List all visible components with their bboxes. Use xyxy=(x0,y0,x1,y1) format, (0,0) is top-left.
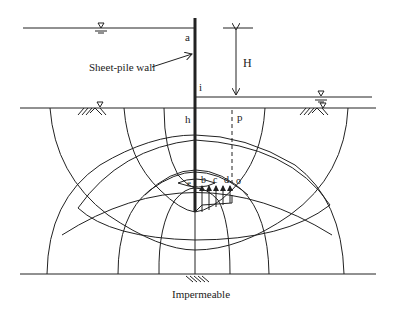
label-h: h xyxy=(185,113,191,125)
label-c: c xyxy=(213,174,218,185)
flow-net-diagram: a i h p H e b c d o Sheet-pile wall Impe… xyxy=(0,0,393,309)
label-p: p xyxy=(237,111,243,123)
impermeable-hatch xyxy=(186,276,209,282)
label-e: e xyxy=(187,178,191,188)
ground-hatch-right xyxy=(300,108,328,115)
equipotential-line xyxy=(195,108,348,250)
label-H: H xyxy=(243,56,252,70)
label-i: i xyxy=(199,81,202,93)
wall-pointer-arrow xyxy=(152,54,192,67)
label-d: d xyxy=(224,174,229,185)
sheet-pile-wall-label: Sheet-pile wall xyxy=(89,61,155,73)
label-b: b xyxy=(201,174,206,185)
label-a: a xyxy=(185,31,190,43)
impermeable-label: Impermeable xyxy=(172,288,230,300)
uplift-pressure-diagram xyxy=(195,186,232,212)
label-o: o xyxy=(236,175,241,186)
ground-hatch-left xyxy=(78,108,106,115)
